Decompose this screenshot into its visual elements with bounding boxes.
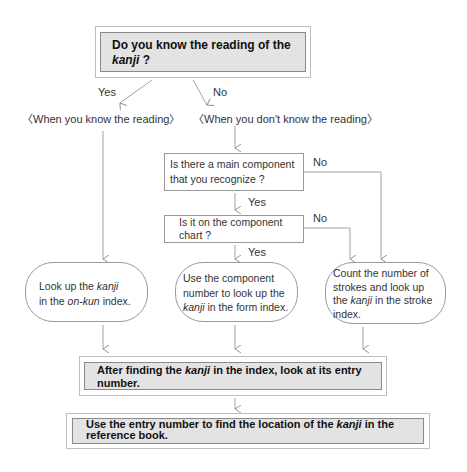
yes-label: Yes	[98, 86, 116, 98]
form-index-step: Use the component number to look up the …	[175, 262, 298, 322]
stroke-index-step: Count the number of strokes and look up …	[325, 262, 446, 324]
unknown-reading-heading: 〈When you don't know the reading〉	[193, 110, 378, 126]
main-component-question: Is there a main component that you recog…	[164, 153, 304, 191]
start-question: Do you know the reading of the kanji ?	[100, 32, 306, 72]
onkun-index-step: Look up the kanji in the on-kun index.	[25, 262, 148, 322]
entry-number-step: After finding the kanji in the index, lo…	[84, 362, 382, 390]
start-question-kanji: kanji	[112, 53, 139, 67]
component-chart-question: Is it on the component chart ?	[164, 215, 304, 243]
known-reading-heading: 〈When you know the reading〉	[22, 110, 180, 126]
main-component-no-label: No	[313, 156, 327, 168]
component-chart-yes-label: Yes	[248, 246, 266, 258]
no-label: No	[213, 86, 227, 98]
final-step: Use the entry number to find the locatio…	[72, 418, 424, 444]
start-question-line1: Do you know the reading of the	[112, 38, 305, 53]
main-component-yes-label: Yes	[248, 196, 266, 208]
component-chart-no-label: No	[313, 212, 327, 224]
